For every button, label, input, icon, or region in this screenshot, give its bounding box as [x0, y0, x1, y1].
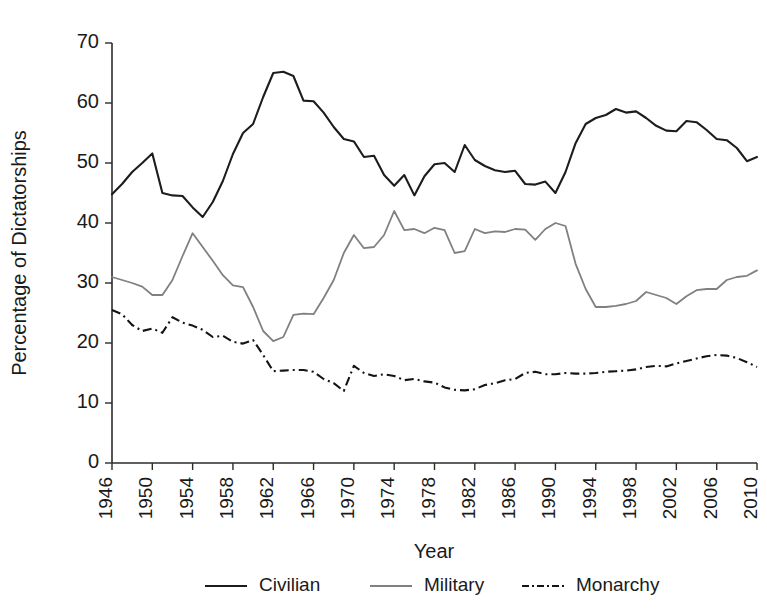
x-tick-label: 1994	[579, 477, 600, 520]
x-tick-label: 1946	[95, 477, 116, 519]
chart-figure: 010203040506070 Percentage of Dictatorsh…	[0, 0, 767, 612]
y-tick-label: 40	[77, 210, 99, 232]
y-tick-label: 30	[77, 270, 99, 292]
y-tick-label: 70	[77, 30, 99, 52]
x-tick-label: 1950	[135, 477, 156, 519]
x-tick-label: 1966	[297, 477, 318, 519]
x-tick-label: 1982	[458, 477, 479, 519]
line-chart-svg: 010203040506070 Percentage of Dictatorsh…	[0, 0, 767, 612]
y-tick-group: 010203040506070	[77, 30, 112, 472]
y-tick-label: 20	[77, 330, 99, 352]
legend-label-monarchy: Monarchy	[576, 574, 660, 595]
x-axis: 1946195019541958196219661970197419781982…	[95, 463, 761, 562]
y-tick-label: 10	[77, 390, 99, 412]
y-axis-title: Percentage of Dictatorships	[8, 130, 30, 376]
x-tick-label: 1962	[256, 477, 277, 519]
x-tick-label: 2010	[740, 477, 761, 519]
x-tick-label: 1974	[377, 477, 398, 520]
x-tick-label: 1954	[176, 477, 197, 520]
legend-label-military: Military	[424, 574, 485, 595]
series-line-military	[112, 211, 757, 341]
x-tick-label: 1958	[216, 477, 237, 519]
chart-legend: CivilianMilitaryMonarchy	[205, 574, 660, 595]
y-tick-label: 60	[77, 90, 99, 112]
y-tick-label: 50	[77, 150, 99, 172]
series-line-monarchy	[112, 310, 757, 391]
x-tick-label: 2002	[659, 477, 680, 519]
y-axis: 010203040506070 Percentage of Dictatorsh…	[8, 30, 112, 472]
legend-label-civilian: Civilian	[259, 574, 320, 595]
series-line-civilian	[112, 72, 757, 217]
x-tick-label: 1990	[538, 477, 559, 519]
x-axis-title: Year	[414, 540, 455, 562]
x-tick-group: 1946195019541958196219661970197419781982…	[95, 463, 761, 519]
x-tick-label: 1986	[498, 477, 519, 519]
y-tick-label: 0	[88, 450, 99, 472]
plot-area	[112, 72, 757, 391]
x-tick-label: 1998	[619, 477, 640, 519]
x-tick-label: 2006	[700, 477, 721, 519]
x-tick-label: 1978	[418, 477, 439, 519]
x-tick-label: 1970	[337, 477, 358, 519]
